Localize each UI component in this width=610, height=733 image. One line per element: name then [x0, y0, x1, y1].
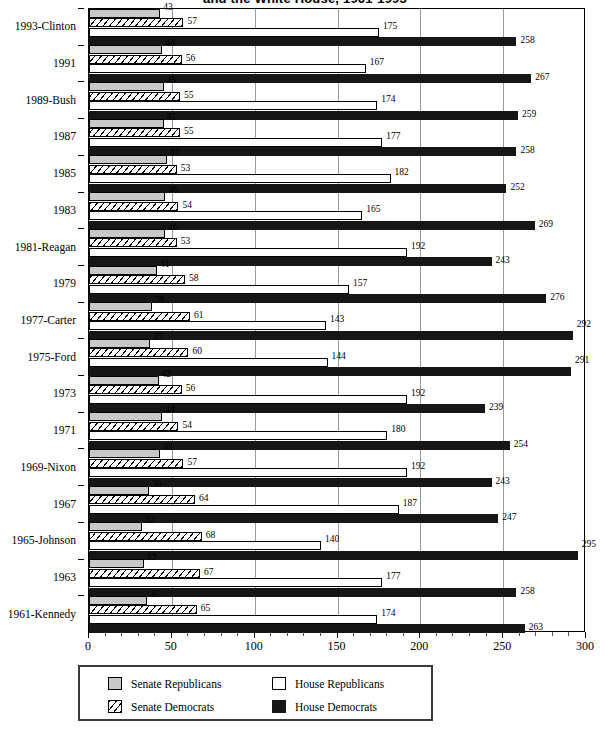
x-axis-tick-label: 50	[165, 640, 177, 653]
y-axis-tick	[78, 45, 84, 46]
bar-value-label: 180	[391, 425, 405, 434]
bar-senate-rep	[89, 596, 147, 605]
bar-group: 4654165269	[89, 193, 584, 230]
x-axis-major-tick	[171, 632, 172, 638]
y-axis-label: 1961-Kennedy	[8, 608, 76, 620]
bar-group: 4357175258	[89, 9, 584, 46]
bar-senate-rep	[89, 82, 164, 91]
y-axis-tick	[78, 192, 84, 193]
y-axis-label: 1993-Clinton	[15, 20, 76, 32]
bar-value-label: 53	[181, 164, 191, 173]
bar-value-label: 68	[206, 531, 216, 540]
y-axis-label: 1963	[53, 571, 76, 583]
bar-value-label: 167	[370, 58, 384, 67]
bar-house-rep	[89, 248, 407, 257]
x-axis-major-tick	[585, 632, 586, 638]
y-axis-category-labels: 1993-Clinton19911989-Bush198719851983198…	[0, 8, 84, 632]
bar-value-label: 56	[186, 384, 196, 393]
bar-value-label: 192	[411, 462, 425, 471]
bar-senate-dem	[89, 348, 188, 357]
y-axis-label: 1987	[53, 130, 76, 142]
legend-item-house-dem[interactable]: House Democrats	[272, 700, 377, 713]
y-axis-tick	[78, 265, 84, 266]
x-axis-minor-tick	[154, 632, 155, 636]
x-axis: 050100150200250300	[88, 632, 585, 658]
bar-value-label: 33	[147, 553, 157, 562]
bar-group: 4555177258	[89, 119, 584, 156]
x-axis-minor-tick	[386, 632, 387, 636]
bar-value-label: 58	[189, 274, 199, 283]
bar-house-rep	[89, 578, 382, 587]
legend-item-senate-rep[interactable]: Senate Republicans	[108, 677, 221, 690]
x-axis-minor-tick	[270, 632, 271, 636]
bar-value-label: 267	[535, 73, 549, 82]
x-axis-minor-tick	[403, 632, 404, 636]
bar-value-label: 37	[153, 333, 163, 342]
legend-item-senate-dem[interactable]: Senate Democrats	[108, 700, 214, 713]
bar-group: 3367177258	[89, 560, 584, 597]
bar-senate-dem	[89, 238, 177, 247]
x-axis-minor-tick	[353, 632, 354, 636]
y-axis-label: 1973	[53, 387, 76, 399]
bar-value-label: 247	[502, 513, 516, 522]
bar-value-label: 47	[170, 149, 180, 158]
y-axis-tick	[78, 155, 84, 156]
legend-item-house-rep[interactable]: House Republicans	[272, 677, 384, 690]
y-axis-tick	[78, 8, 84, 9]
x-axis-tick-label: 300	[576, 640, 594, 653]
y-axis-tick	[78, 485, 84, 486]
bar-house-rep	[89, 468, 407, 477]
bar-value-label: 239	[489, 403, 503, 412]
legend-swatch-icon	[108, 677, 122, 690]
bar-house-rep	[89, 101, 377, 110]
y-axis-tick	[78, 448, 84, 449]
bar-senate-rep	[89, 229, 165, 238]
bar-house-rep	[89, 28, 379, 37]
x-axis-minor-tick	[469, 632, 470, 636]
legend-item-label: House Democrats	[295, 701, 377, 713]
bar-house-rep	[89, 174, 391, 183]
bar-value-label: 32	[145, 516, 155, 525]
bar-group: 4555174259	[89, 82, 584, 119]
y-axis-tick	[78, 522, 84, 523]
y-axis-label: 1977-Carter	[20, 314, 76, 326]
bar-value-label: 36	[152, 480, 162, 489]
bar-value-label: 41	[160, 260, 170, 269]
x-axis-minor-tick	[237, 632, 238, 636]
x-axis-minor-tick	[519, 632, 520, 636]
bar-house-rep	[89, 211, 362, 220]
x-axis-major-tick	[254, 632, 255, 638]
y-axis-label: 1975-Ford	[27, 351, 76, 363]
bar-group: 4256192239	[89, 376, 584, 413]
bar-senate-dem	[89, 18, 183, 27]
x-axis-tick-label: 250	[493, 640, 511, 653]
x-axis-minor-tick	[370, 632, 371, 636]
y-axis-tick	[78, 375, 84, 376]
bar-value-label: 35	[150, 590, 160, 599]
bar-value-label: 187	[403, 499, 417, 508]
x-axis-tick-label: 0	[85, 640, 91, 653]
bar-value-label: 67	[204, 568, 214, 577]
bar-senate-dem	[89, 92, 180, 101]
y-axis-label: 1969-Nixon	[20, 461, 76, 473]
x-axis-minor-tick	[187, 632, 188, 636]
bar-group: 3861143292	[89, 303, 584, 340]
x-axis-minor-tick	[121, 632, 122, 636]
bar-value-label: 43	[163, 443, 173, 452]
y-axis-tick	[78, 338, 84, 339]
x-axis-minor-tick	[221, 632, 222, 636]
bar-value-label: 140	[325, 535, 339, 544]
bar-value-label: 192	[411, 389, 425, 398]
bar-value-label: 65	[201, 604, 211, 613]
bar-group: 4456167267	[89, 46, 584, 83]
bar-senate-dem	[89, 385, 182, 394]
bar-senate-rep	[89, 302, 152, 311]
y-axis-label: 1983	[53, 204, 76, 216]
bar-value-label: 43	[163, 3, 173, 12]
x-axis-minor-tick	[287, 632, 288, 636]
bar-value-label: 54	[182, 421, 192, 430]
bar-value-label: 60	[192, 347, 202, 356]
bar-house-rep	[89, 431, 387, 440]
x-axis-tick-label: 150	[328, 640, 346, 653]
bar-group: 3565174263	[89, 596, 584, 633]
